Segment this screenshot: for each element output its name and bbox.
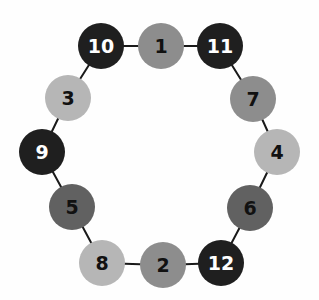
node-7: 7 — [230, 76, 276, 122]
node-5-circle — [49, 184, 95, 230]
node-8: 8 — [79, 240, 125, 286]
node-6: 6 — [227, 185, 273, 231]
node-9-circle — [19, 129, 65, 175]
node-1: 1 — [138, 23, 184, 69]
node-3: 3 — [45, 75, 91, 121]
node-9: 9 — [19, 129, 65, 175]
node-4-circle — [254, 129, 300, 175]
node-2-circle — [140, 242, 186, 288]
node-7-circle — [230, 76, 276, 122]
node-10-circle — [78, 23, 124, 69]
node-12: 12 — [198, 240, 244, 286]
node-4: 4 — [254, 129, 300, 175]
node-1-circle — [138, 23, 184, 69]
node-6-circle — [227, 185, 273, 231]
cycle-graph-figure: 123456789101112 — [0, 0, 319, 300]
node-11-circle — [197, 23, 243, 69]
nodes-layer: 123456789101112 — [19, 23, 300, 288]
node-5: 5 — [49, 184, 95, 230]
node-3-circle — [45, 75, 91, 121]
node-10: 10 — [78, 23, 124, 69]
graph-canvas: 123456789101112 — [0, 0, 319, 300]
node-8-circle — [79, 240, 125, 286]
node-11: 11 — [197, 23, 243, 69]
node-2: 2 — [140, 242, 186, 288]
node-12-circle — [198, 240, 244, 286]
